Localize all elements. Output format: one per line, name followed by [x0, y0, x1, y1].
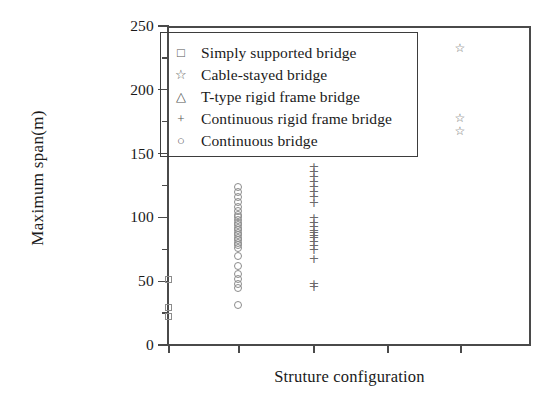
chart-legend: □Simply supported bridge☆Cable-stayed br… — [160, 32, 418, 157]
triangle-marker-icon: △ — [161, 85, 201, 108]
x-tick-4 — [387, 345, 389, 353]
legend-item-label: Continuous bridge — [201, 132, 318, 150]
x-tick-1 — [168, 345, 170, 353]
circle-marker-icon: ○ — [161, 129, 201, 152]
y-tick-label: 100 — [108, 209, 154, 225]
plot-frame-right — [529, 26, 531, 345]
plus-marker-icon: + — [161, 107, 201, 130]
legend-item-label: Simply supported bridge — [201, 44, 357, 62]
x-tick-5 — [460, 345, 462, 353]
square-marker-icon: □ — [161, 41, 201, 64]
y-tick-label: 200 — [108, 82, 154, 98]
data-point-plus: + — [309, 198, 318, 207]
x-tick-3 — [313, 345, 315, 353]
data-point-square — [165, 304, 172, 311]
data-point-circle — [234, 244, 242, 252]
plot-frame-top — [168, 26, 531, 28]
data-point-circle — [234, 252, 242, 260]
legend-item-square[interactable]: □Simply supported bridge — [161, 41, 417, 64]
data-point-circle — [234, 301, 242, 309]
data-point-plus: + — [309, 254, 318, 263]
y-tick-label: 150 — [108, 146, 154, 162]
data-point-circle — [234, 284, 242, 292]
legend-item-triangle[interactable]: △T-type rigid frame bridge — [161, 85, 417, 108]
legend-item-plus[interactable]: +Continuous rigid frame bridge — [161, 107, 417, 130]
data-point-star: ☆ — [454, 125, 466, 137]
y-axis-title: Maximum span(m) — [28, 68, 48, 288]
y-tick-minor — [162, 249, 169, 250]
y-tick-label: 0 — [108, 337, 154, 353]
y-tick-label: 50 — [108, 273, 154, 289]
x-axis-title: Struture configuration — [168, 367, 531, 387]
legend-item-label: Continuous rigid frame bridge — [201, 110, 392, 128]
star-marker-icon: ☆ — [161, 63, 201, 86]
legend-item-circle[interactable]: ○Continuous bridge — [161, 129, 417, 152]
y-tick-label: 250 — [108, 18, 154, 34]
legend-item-star[interactable]: ☆Cable-stayed bridge — [161, 63, 417, 86]
data-point-square — [165, 276, 172, 283]
data-point-square — [165, 313, 172, 320]
x-tick-2 — [238, 345, 240, 353]
y-tick-minor — [162, 185, 169, 186]
data-point-circle — [234, 262, 242, 270]
legend-item-label: T-type rigid frame bridge — [201, 88, 360, 106]
scatter-chart: 050100150200250 Maximum span(m) Struture… — [0, 0, 559, 414]
data-point-plus: + — [309, 282, 318, 291]
y-tick-major — [158, 217, 169, 218]
y-tick-major — [158, 25, 169, 26]
data-point-star: ☆ — [454, 42, 466, 54]
data-point-star: ☆ — [454, 112, 466, 124]
legend-item-label: Cable-stayed bridge — [201, 66, 327, 84]
plot-frame-bottom — [168, 344, 531, 346]
